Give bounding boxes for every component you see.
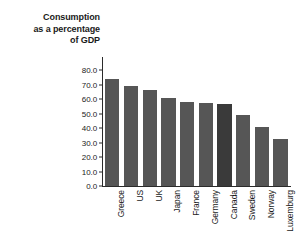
y-axis-tick-label: 10.0 [53, 167, 103, 176]
bar-uk [143, 90, 157, 186]
bar-series [103, 70, 290, 186]
x-axis-label-greece: Greece [116, 190, 126, 217]
bar-slot [103, 70, 122, 186]
bar-japan [161, 98, 175, 186]
chart-title-line-3: of GDP [8, 35, 100, 47]
bar-slot [215, 70, 234, 186]
x-axis-label-germany: Germany [210, 190, 220, 224]
bar-norway [255, 127, 269, 186]
y-axis-tick-label: 60.0 [53, 95, 103, 104]
x-axis-line [103, 186, 291, 187]
bar-slot [178, 70, 197, 186]
bar-slot [197, 70, 216, 186]
bar-slot [159, 70, 178, 186]
plot-area: 80.070.060.050.040.030.020.010.00.0 [103, 70, 290, 186]
x-axis-label-luxemburg: Luxemburg [285, 190, 295, 232]
bar-slot [253, 70, 272, 186]
bar-france [180, 102, 194, 186]
x-axis-label-us: US [135, 190, 145, 202]
x-axis-label-uk: UK [154, 190, 164, 202]
y-axis-tick-label: 40.0 [53, 124, 103, 133]
bar-slot [140, 70, 159, 186]
y-axis-tick-label: 20.0 [53, 153, 103, 162]
x-axis-label-canada: Canada [229, 190, 239, 219]
x-axis-label-sweden: Sweden [247, 190, 257, 220]
y-axis-tick-label: 30.0 [53, 138, 103, 147]
x-axis-label-norway: Norway [266, 190, 276, 218]
bar-luxemburg [273, 139, 287, 186]
bar-greece [105, 79, 119, 186]
bar-canada [217, 104, 231, 186]
x-axis-label-france: France [191, 190, 201, 216]
chart-title: Consumption as a percentage of GDP [8, 12, 100, 47]
bar-chart: Consumption as a percentage of GDP 80.07… [0, 0, 305, 250]
bar-sweden [236, 115, 250, 186]
y-axis-tick-label: 0.0 [53, 182, 103, 191]
y-axis-tick-label: 50.0 [53, 109, 103, 118]
y-axis-tick-label: 70.0 [53, 80, 103, 89]
bar-slot [122, 70, 141, 186]
chart-title-line-2: as a percentage [8, 24, 100, 36]
bar-germany [199, 103, 213, 186]
bar-slot [271, 70, 290, 186]
chart-title-line-1: Consumption [8, 12, 100, 24]
y-axis-tick-label: 80.0 [53, 66, 103, 75]
bar-us [124, 86, 138, 186]
bar-slot [234, 70, 253, 186]
x-axis-label-japan: Japan [172, 190, 182, 213]
